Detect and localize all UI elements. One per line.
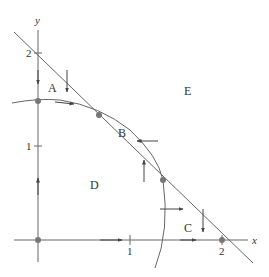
region-label-a: A (48, 81, 57, 95)
curved-nullcline (12, 99, 165, 268)
equilibria (35, 98, 225, 243)
equilibrium-y-axis (35, 98, 41, 104)
region-labels: A B C D E (48, 81, 192, 235)
region-label-c: C (184, 221, 192, 235)
region-label-e: E (184, 84, 191, 98)
x-tick-label-2: 2 (219, 245, 225, 257)
x-axis-label: x (251, 234, 257, 246)
equilibrium-origin (35, 237, 41, 243)
y-axis-label: y (34, 14, 40, 26)
x-tick-label-1: 1 (127, 245, 133, 257)
equilibrium-lower (160, 177, 166, 183)
straight-nullcline (14, 32, 253, 263)
y-tick-label-1: 1 (26, 140, 32, 152)
phase-plane-diagram: x y 1 2 1 2 A B C D E (0, 0, 269, 277)
region-label-b: B (118, 126, 126, 140)
equilibrium-upper (96, 112, 102, 118)
region-flow-arrows (67, 70, 203, 232)
equilibrium-x-axis (219, 237, 225, 243)
region-label-d: D (90, 178, 99, 192)
axes: x y 1 2 1 2 (14, 14, 257, 262)
axis-flow-arrows (38, 70, 196, 240)
